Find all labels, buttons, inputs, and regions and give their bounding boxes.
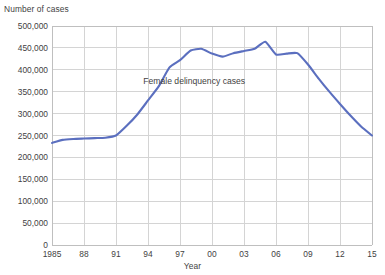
x-tick-label: 00 (207, 249, 216, 259)
series-annotation-label: Female delinquency cases (143, 76, 245, 86)
x-tick-label: 97 (175, 249, 184, 259)
x-tick-label: 12 (335, 249, 344, 259)
x-tick-label: 09 (303, 249, 312, 259)
x-tick-label: 94 (143, 249, 152, 259)
plot-area (0, 0, 385, 275)
gridlines (52, 26, 372, 245)
x-tick-label: 15 (367, 249, 376, 259)
x-tick-label: 06 (271, 249, 280, 259)
x-tick-label: 1985 (43, 249, 62, 259)
x-tick-label: 88 (79, 249, 88, 259)
x-axis-title: Year (0, 261, 385, 271)
x-tick-label: 91 (111, 249, 120, 259)
chart-container: Number of cases 500,000450,000400,000350… (0, 0, 385, 275)
x-tick-label: 03 (239, 249, 248, 259)
